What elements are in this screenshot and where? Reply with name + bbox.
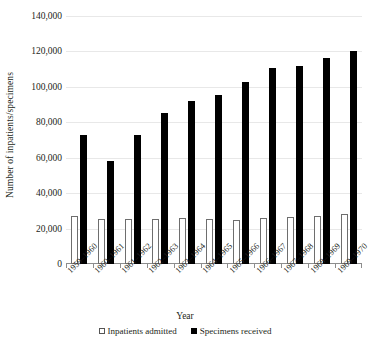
y-axis-tick-label: 80,000 [36,117,62,127]
bars-layer [66,16,362,264]
legend-label: Inpatients admitted [108,326,177,336]
y-axis-tick-label: 100,000 [31,82,62,92]
legend-label: Specimens received [200,326,272,336]
legend-entry: Specimens received [191,326,272,336]
y-axis-tick-label: 120,000 [31,46,62,56]
bar-group [93,16,120,264]
bar-specimens-received [161,113,168,264]
chart-legend: Inpatients admittedSpecimens received [0,326,370,336]
y-axis-tick-label: 40,000 [36,188,62,198]
bar-specimens-received [80,135,87,264]
bar-group [308,16,335,264]
bar-specimens-received [242,82,249,264]
bar-specimens-received [350,51,357,264]
bar-group [227,16,254,264]
bar-group [120,16,147,264]
bar-group [66,16,93,264]
y-axis-tick-label: 60,000 [36,153,62,163]
bar-specimens-received [323,58,330,264]
x-axis-title: Year [0,311,370,321]
bar-group [254,16,281,264]
bar-group [201,16,228,264]
bar-specimens-received [215,95,222,264]
bar-specimens-received [188,101,195,264]
y-axis-tick-labels: 140,000120,000100,00080,00060,00040,0002… [14,16,62,264]
bar-specimens-received [296,66,303,264]
legend-entry: Inpatients admitted [99,326,177,336]
x-axis-category-labels: 1959–19601960–19611961–19621962–19631963… [66,268,362,312]
bar-specimens-received [134,135,141,264]
bar-group [335,16,362,264]
legend-swatch-solid-icon [191,328,197,334]
y-axis-tick-label: 0 [57,259,62,269]
bar-group [281,16,308,264]
bar-specimens-received [269,68,276,264]
bar-group [147,16,174,264]
legend-swatch-hollow-icon [99,328,105,334]
y-axis-tick-label: 140,000 [31,11,62,21]
y-axis-tick-label: 20,000 [36,224,62,234]
bar-chart-figure: Number of inpatients/specimens 140,00012… [0,0,370,343]
bar-group [174,16,201,264]
